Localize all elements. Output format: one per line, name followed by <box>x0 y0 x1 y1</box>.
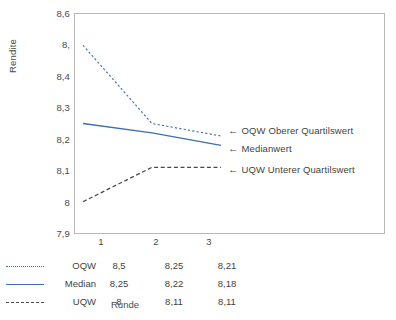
x-tick-label-3: 3 <box>194 236 224 247</box>
legend-label-oqw: OQW <box>48 260 96 271</box>
legend-value-oqw-1: 8,5 <box>97 260 141 271</box>
annotation-uqw: ←UQW Unterer Quartilswert <box>228 163 355 175</box>
y-tick-label: 7,9 <box>36 228 70 239</box>
y-tick-label: 8 <box>36 197 70 208</box>
series-line-uqw <box>83 167 221 201</box>
arrow-left-icon: ← <box>228 163 239 175</box>
legend-value-oqw-3: 8,21 <box>205 260 249 271</box>
legend-value-oqw-2: 8,25 <box>152 260 196 271</box>
y-tick-label: 8,6 <box>36 8 70 19</box>
series-line-median <box>83 124 221 146</box>
series-line-oqw <box>83 45 221 136</box>
chart-figure: Rendite 8,6 8, 8,4 8,3 8,2 8,1 8 7,9 1 2… <box>0 0 396 320</box>
annotation-text: UQW Unterer Quartilswert <box>242 164 355 175</box>
legend-row-oqw: OQW 8,5 8,25 8,21 <box>0 260 396 275</box>
y-tick-label: 8,1 <box>36 165 70 176</box>
x-tick-label-1: 1 <box>86 236 116 247</box>
legend-swatch-median <box>6 284 44 288</box>
annotation-oqw: ←OQW Oberer Quartilswert <box>228 124 353 136</box>
legend-value-median-3: 8,18 <box>205 278 249 289</box>
annotation-text: Medianwert <box>242 143 292 154</box>
arrow-left-icon: ← <box>228 142 239 154</box>
legend-value-median-2: 8,22 <box>152 278 196 289</box>
y-tick-label: 8,3 <box>36 102 70 113</box>
legend-label-median: Median <box>48 278 96 289</box>
legend-swatch-oqw <box>6 266 44 270</box>
y-tick-label: 8,4 <box>36 71 70 82</box>
y-tick-label: 8, <box>36 39 70 50</box>
annotation-median: ←Medianwert <box>228 142 292 154</box>
annotation-text: OQW Oberer Quartilswert <box>242 125 354 136</box>
legend-row-median: Median 8,25 8,22 8,18 <box>0 278 396 293</box>
y-axis-title: Rendite <box>7 20 18 92</box>
y-tick-label: 8,2 <box>36 134 70 145</box>
x-axis-title: Runde <box>0 299 250 310</box>
arrow-left-icon: ← <box>228 124 239 136</box>
x-tick-label-2: 2 <box>141 236 171 247</box>
legend-value-median-1: 8,25 <box>97 278 141 289</box>
